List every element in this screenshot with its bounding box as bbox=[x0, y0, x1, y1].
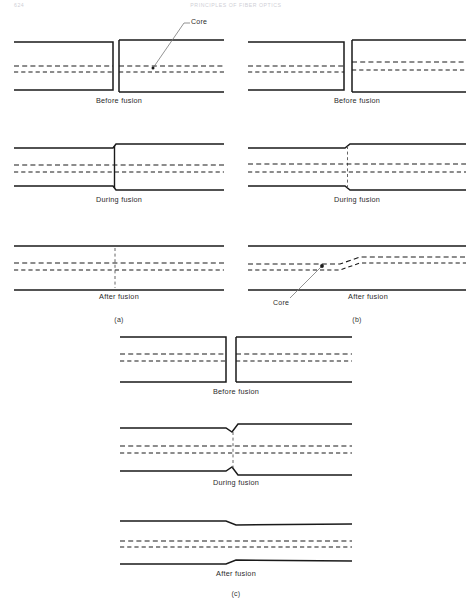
caption-b-during: During fusion bbox=[334, 195, 380, 204]
panel-b-before-right-fiber bbox=[352, 40, 466, 92]
panel-b-before-left-fiber bbox=[248, 42, 344, 90]
label-section-b: (b) bbox=[352, 316, 361, 323]
panel-b-after bbox=[248, 246, 466, 290]
caption-a-after: After fusion bbox=[99, 292, 139, 301]
panel-c-after bbox=[120, 521, 352, 564]
panel-c-during bbox=[120, 424, 352, 475]
callout-core-bottom-leader bbox=[290, 264, 324, 298]
caption-b-after: After fusion bbox=[348, 292, 388, 301]
panel-c-before-right-fiber bbox=[236, 337, 352, 382]
figure-page: 624 PRINCIPLES OF FIBER OPTICS .cl{strok… bbox=[0, 0, 472, 604]
panel-a-before-left-fiber bbox=[14, 42, 113, 90]
label-section-a: (a) bbox=[114, 316, 123, 323]
fusion-splice-artwork: .cl{stroke:#1a1a1a;stroke-width:1.5;fill… bbox=[0, 0, 472, 604]
caption-a-during: During fusion bbox=[96, 195, 142, 204]
caption-a-before: Before fusion bbox=[96, 96, 142, 105]
panel-a-before-right-fiber bbox=[119, 40, 224, 92]
callout-core-bottom-label: Core bbox=[273, 299, 289, 306]
panel-a-during bbox=[14, 144, 224, 190]
panel-c-before-left-fiber bbox=[120, 337, 226, 382]
caption-c-during: During fusion bbox=[213, 478, 259, 487]
caption-b-before: Before fusion bbox=[334, 96, 380, 105]
caption-c-after: After fusion bbox=[216, 569, 256, 578]
callout-core-top-label: Core bbox=[191, 18, 207, 25]
caption-c-before: Before fusion bbox=[213, 387, 259, 396]
callout-core-top-leader bbox=[152, 23, 191, 70]
label-section-c: (c) bbox=[232, 590, 241, 597]
panel-b-during bbox=[248, 144, 466, 190]
panel-a-after bbox=[14, 246, 224, 290]
